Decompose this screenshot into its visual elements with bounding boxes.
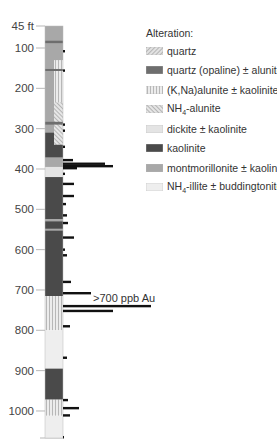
layer-kna_alunite — [45, 400, 63, 416]
legend-label: quartz — [167, 45, 196, 57]
au-assay-bar — [63, 254, 67, 256]
layer-kaolinite — [54, 145, 63, 158]
layer-kaolinite — [45, 369, 63, 400]
layer-nh4_illite — [45, 416, 63, 438]
legend-swatch — [146, 105, 163, 113]
layer-kna_alunite — [45, 296, 63, 330]
layer-montmorillonite — [45, 229, 63, 231]
legend-swatch — [146, 183, 163, 191]
depth-tick-label: 500 — [15, 203, 34, 215]
depth-tick-label: 400 — [15, 163, 34, 175]
au-assay-bar — [63, 214, 67, 216]
layer-opaline — [45, 69, 63, 71]
au-assay-bar — [63, 325, 70, 327]
legend-swatch — [146, 164, 163, 172]
layer-kaolinite — [45, 177, 63, 296]
au-assay-bar — [63, 407, 79, 409]
legend-swatch — [146, 125, 163, 133]
layer-opaline — [45, 122, 63, 125]
depth-tick-label: 200 — [15, 82, 34, 94]
au-assay-bar — [63, 357, 67, 359]
au-assay-bar — [63, 173, 65, 175]
layer-opaline — [45, 41, 63, 43]
au-assay-bar — [63, 123, 65, 125]
au-assay-bar — [63, 248, 65, 250]
legend-title: Alteration: — [146, 26, 277, 41]
legend-label: NH4-illite ± buddingtonite — [167, 180, 277, 194]
depth-tick-label: 700 — [15, 284, 34, 296]
legend-swatch — [146, 144, 163, 152]
au-assay-bar — [63, 436, 64, 438]
au-assay-bar — [63, 310, 113, 312]
au-assay-bar — [63, 50, 65, 52]
layer-kaolinite — [45, 133, 54, 158]
au-assay-bar — [63, 292, 91, 294]
au-assay-bar — [63, 183, 74, 185]
au-assay-bar — [63, 159, 73, 161]
legend-item-dickite: dickite ± kaolinite — [146, 119, 277, 139]
legend-item-nh4_illite: NH4-illite ± buddingtonite — [146, 178, 277, 198]
legend-label: dickite ± kaolinite — [167, 123, 247, 135]
legend-item-kna_alunite: (K,Na)alunite ± kaolinite — [146, 80, 277, 100]
au-assay-bar — [63, 129, 65, 131]
au-assay-bar — [63, 222, 68, 224]
layer-montmorillonite — [45, 158, 63, 167]
depth-tick-label: 800 — [15, 324, 34, 336]
legend-item-opaline: quartz (opaline) ± alunite — [146, 61, 277, 81]
legend-swatch — [146, 47, 163, 55]
au-assay-bar — [63, 163, 105, 165]
legend-label: quartz (opaline) ± alunite — [167, 64, 277, 76]
au-assay-bar — [63, 281, 71, 283]
au-assay-bar — [63, 69, 65, 71]
depth-tick-label: 900 — [15, 365, 34, 377]
legend-swatch — [146, 66, 163, 74]
legend-label: montmorillonite ± kaolinite — [167, 162, 277, 174]
depth-tick-label: 600 — [15, 244, 34, 256]
depth-tick-label: 1000 — [8, 405, 34, 417]
alteration-legend: Alteration: quartzquartz (opaline) ± alu… — [146, 26, 277, 197]
legend-item-kaolinite: kaolinite — [146, 139, 277, 159]
legend-swatch — [146, 86, 163, 94]
au-assay-bar — [63, 167, 77, 169]
legend-item-montmorillonite: montmorillonite ± kaolinite — [146, 158, 277, 178]
layer-montmorillonite — [45, 219, 63, 221]
layer-dickite — [45, 167, 63, 177]
au-assay-bar — [63, 414, 70, 416]
au-assay-bar — [63, 203, 66, 205]
legend-item-quartz: quartz — [146, 41, 277, 61]
depth-tick-label: 45 ft — [12, 20, 35, 32]
au-assay-bar — [63, 305, 151, 307]
layer-nh4_illite — [45, 330, 63, 368]
au-assay-bar — [63, 236, 74, 238]
legend-label: (K,Na)alunite ± kaolinite — [167, 84, 277, 96]
legend-label: kaolinite — [167, 142, 206, 154]
legend-item-nh4_alunite: NH4-alunite — [146, 100, 277, 120]
alteration-column — [45, 26, 63, 438]
au-assay-bar — [63, 146, 65, 148]
gold-annotation: >700 ppb Au — [93, 292, 155, 304]
legend-label: NH4-alunite — [167, 102, 221, 116]
depth-tick-label: 100 — [15, 42, 34, 54]
gold-assay-bars — [63, 50, 151, 438]
au-assay-bar — [63, 195, 74, 197]
au-assay-bar — [63, 399, 68, 401]
depth-tick-label: 300 — [15, 123, 34, 135]
